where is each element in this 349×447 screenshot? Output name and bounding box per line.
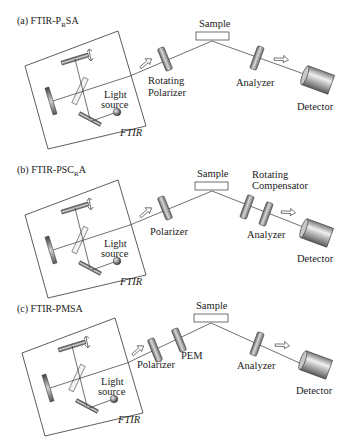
analyzer-label: Analyzer <box>237 360 276 371</box>
detector-label: Detector <box>297 253 334 264</box>
detector-icon <box>299 65 335 94</box>
ftir-label: FTIR <box>117 414 141 425</box>
ftir-label: FTIR <box>119 127 143 138</box>
sample <box>196 32 229 40</box>
beam-direction-arrow <box>281 206 297 218</box>
polarizer-label: Polarizer <box>137 359 175 370</box>
panel-b-title: (b) FTIR-PSCRA <box>17 164 87 178</box>
analyzer-label: Analyzer <box>236 77 275 88</box>
beam-direction-arrow <box>130 344 146 356</box>
sample-label: Sample <box>199 18 231 29</box>
panel-a: (a) FTIR-PRSA Light source FTIR Rotating… <box>17 15 335 149</box>
panel-c-title: (c) FTIR-PMSA <box>17 303 84 315</box>
detector-icon <box>298 218 334 247</box>
beam-direction-arrow <box>274 53 290 65</box>
ellipsometry-setup-diagram: (a) FTIR-PRSA Light source FTIR Rotating… <box>0 0 349 447</box>
polarizer-label: Polarizer <box>150 226 188 237</box>
pem-optic <box>171 328 186 353</box>
detector-icon <box>297 350 333 379</box>
analyzer-label: Analyzer <box>247 229 286 240</box>
light-source-label-2: source <box>101 248 129 259</box>
light-source-label-2: source <box>98 386 126 397</box>
analyzer-optic <box>250 46 265 71</box>
panel-b: (b) FTIR-PSCRA Light source FTIR Polariz… <box>17 164 334 298</box>
rotating-polarizer-label-2: Polarizer <box>148 87 186 98</box>
rotating-compensator-label: Rotating <box>252 169 289 180</box>
detector-label: Detector <box>297 101 334 112</box>
pem-label: PEM <box>181 350 203 361</box>
sample <box>195 182 228 190</box>
light-source-label-2: source <box>101 99 129 110</box>
beam-path <box>130 41 318 79</box>
sample-label: Sample <box>196 300 228 311</box>
panel-a-title: (a) FTIR-PRSA <box>17 15 79 29</box>
rotating-polarizer-label: Rotating <box>148 75 185 86</box>
analyzer-optic <box>250 332 265 357</box>
ftir-label: FTIR <box>119 276 143 287</box>
sample-label: Sample <box>197 168 229 179</box>
beam-direction-arrow <box>275 339 291 351</box>
detector-label: Detector <box>296 385 333 396</box>
panel-c: (c) FTIR-PMSA Light source FTIR Polarize… <box>17 300 333 436</box>
sample <box>194 314 228 322</box>
rotating-compensator-label-2: Compensator <box>252 180 308 191</box>
